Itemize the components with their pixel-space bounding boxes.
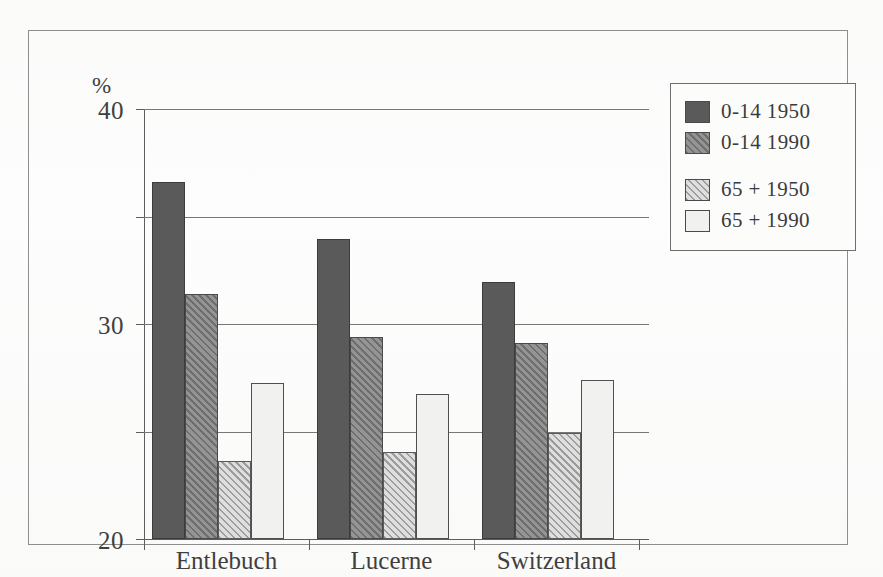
bar-lucerne-series-1[interactable] (350, 337, 383, 539)
gridline-0 (144, 539, 649, 540)
legend-item-2[interactable]: 65 + 1950 (685, 174, 855, 205)
chart-legend: 0-14 19500-14 199065 + 195065 + 1990 (670, 83, 856, 251)
x-axis-label-switzerland: Switzerland (497, 547, 616, 575)
bar-lucerne-series-0[interactable] (317, 239, 350, 539)
bar-lucerne-series-3[interactable] (416, 394, 449, 539)
bar-switzerland-series-3[interactable] (581, 380, 614, 539)
bar-lucerne-series-2[interactable] (383, 452, 416, 539)
y-tick-label-40: 40 (98, 98, 124, 123)
bar-entlebuch-series-1[interactable] (185, 294, 218, 539)
legend-item-3[interactable]: 65 + 1990 (685, 205, 855, 236)
legend-swatch-white (685, 210, 710, 232)
bar-group-switzerland (482, 109, 614, 539)
legend-label-1: 0-14 1990 (721, 130, 810, 155)
legend-swatch-solid-dark-gray (685, 101, 710, 123)
legend-label-3: 65 + 1990 (721, 208, 810, 233)
bar-entlebuch-series-3[interactable] (251, 383, 284, 539)
legend-item-1[interactable]: 0-14 1990 (685, 127, 855, 158)
bar-group-entlebuch (152, 109, 284, 539)
y-tick-label-20: 20 (98, 528, 124, 553)
legend-label-2: 65 + 1950 (721, 177, 810, 202)
plot-area (144, 109, 649, 539)
x-tick-0 (144, 539, 145, 550)
x-tick-1 (309, 539, 310, 550)
bar-entlebuch-series-2[interactable] (218, 461, 251, 539)
bar-group-lucerne (317, 109, 449, 539)
bar-entlebuch-series-0[interactable] (152, 182, 185, 539)
x-axis-label-entlebuch: Entlebuch (176, 547, 277, 575)
bar-switzerland-series-0[interactable] (482, 282, 515, 539)
bar-switzerland-series-1[interactable] (515, 343, 548, 539)
x-tick-2 (474, 539, 475, 550)
bar-switzerland-series-2[interactable] (548, 433, 581, 539)
y-axis-unit-label: % (92, 73, 111, 99)
y-tick-label-30: 30 (98, 313, 124, 338)
legend-item-0[interactable]: 0-14 1950 (685, 96, 855, 127)
x-tick-3 (639, 539, 640, 550)
legend-label-0: 0-14 1950 (721, 99, 810, 124)
legend-swatch-hatched-dark-gray (685, 132, 710, 154)
x-axis-label-lucerne: Lucerne (351, 547, 433, 575)
legend-swatch-hatched-light-gray (685, 179, 710, 201)
chart-frame: % 403020100 0-14 19500-14 199065 + 19506… (28, 30, 848, 545)
